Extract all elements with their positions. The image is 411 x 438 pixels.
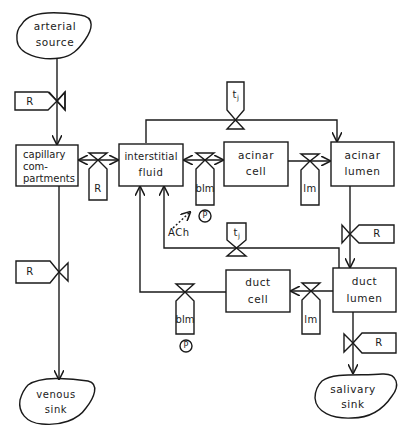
tj-duct-label: tj — [229, 226, 245, 243]
r-salivary-label: R — [364, 336, 394, 349]
r-acinar-duct-label: R — [362, 227, 392, 240]
acinar-lumen-label-2: lumen — [331, 165, 394, 178]
arterial-source-label-1: arterial — [22, 20, 88, 33]
blm-acinar-label: blm — [194, 182, 216, 195]
duct-cell-label-1: duct — [226, 276, 290, 289]
venous-sink-label-1: venous — [22, 388, 90, 401]
salivary-gland-compartment-diagram: arterial source capillary com- partments… — [0, 0, 411, 438]
duct-lumen-label-1: duct — [333, 275, 396, 288]
acinar-cell-label-1: acinar — [224, 149, 288, 162]
acinar-lumen-label-1: acinar — [331, 149, 394, 162]
acinar-cell-label-2: cell — [224, 165, 288, 178]
ach-label: ACh — [168, 226, 190, 239]
interstitial-label-2: fluid — [119, 166, 183, 179]
salivary-sink-label-1: salivary — [318, 383, 388, 396]
salivary-sink-blob — [315, 374, 397, 418]
r-arterial-label: R — [20, 95, 40, 108]
duct-cell-label-2: cell — [226, 293, 290, 306]
p-duct-label: P — [180, 340, 192, 352]
lm-duct-label: lm — [301, 313, 321, 326]
salivary-sink-label-2: sink — [318, 398, 388, 411]
p-acinar-label: P — [199, 210, 211, 222]
capillary-label-3: partments — [23, 172, 75, 185]
blm-duct-label: blm — [174, 313, 196, 326]
duct-lumen-label-2: lumen — [333, 292, 396, 305]
r-venous-label: R — [20, 265, 40, 278]
r-cap-int-label: R — [89, 182, 107, 195]
tj-acinar-label: tj — [228, 88, 244, 105]
interstitial-label-1: interstitial — [119, 150, 183, 163]
lm-acinar-label: lm — [300, 182, 320, 195]
arterial-source-label-2: source — [22, 36, 88, 49]
venous-sink-label-2: sink — [22, 403, 90, 416]
venous-sink-blob — [20, 378, 95, 424]
